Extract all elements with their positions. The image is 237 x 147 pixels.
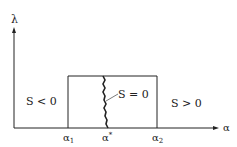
region-label-boundary: S = 0	[118, 88, 149, 101]
region-label-positive: S > 0	[171, 97, 202, 110]
tick-label-alpha2: α2	[152, 132, 163, 145]
transition-region-box	[68, 76, 157, 128]
x-axis-label: α	[223, 122, 230, 133]
x-axis-arrow-icon	[213, 126, 219, 130]
y-axis-label: λ	[11, 13, 18, 26]
phase-diagram: λ α S < 0 S = 0 S > 0 α1 α* α2	[0, 0, 237, 147]
y-axis-arrow-icon	[12, 27, 16, 33]
tick-label-alpha1: α1	[63, 132, 74, 145]
s-zero-leader-line	[106, 94, 118, 101]
tick-label-alpha-star: α*	[102, 131, 113, 143]
s-zero-boundary-curve	[103, 76, 108, 128]
region-label-negative: S < 0	[26, 95, 57, 108]
